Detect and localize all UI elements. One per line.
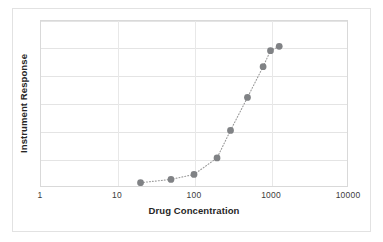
data-point xyxy=(227,127,234,134)
data-point xyxy=(267,47,274,54)
x-axis-title: Drug Concentration xyxy=(40,205,348,216)
trend-line xyxy=(141,46,280,182)
data-series xyxy=(41,21,347,186)
xtick-label: 10000 xyxy=(336,190,361,200)
data-point xyxy=(276,43,283,50)
data-point xyxy=(260,63,267,70)
data-point xyxy=(137,179,144,186)
y-axis-title: Instrument Response xyxy=(17,20,31,187)
xtick-label: 1 xyxy=(38,190,43,200)
data-point xyxy=(244,94,251,101)
chart-figure: 1 10 100 1000 10000 Drug Concentration I… xyxy=(0,0,383,242)
plot-area xyxy=(40,20,348,187)
data-point xyxy=(191,171,198,178)
xtick-label: 1000 xyxy=(261,190,281,200)
xtick-label: 100 xyxy=(187,190,202,200)
data-point xyxy=(214,155,221,162)
xtick-label: 10 xyxy=(112,190,122,200)
data-point xyxy=(168,176,175,183)
data-point-group xyxy=(137,43,282,186)
